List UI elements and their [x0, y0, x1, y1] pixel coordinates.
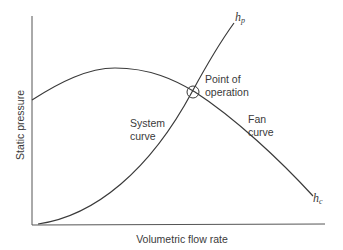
- system-curve-label: System curve: [130, 117, 165, 142]
- subscript: c: [319, 197, 323, 206]
- system-curve-end-label: hp: [235, 11, 245, 28]
- label-line-1: Point of: [205, 73, 249, 86]
- label-line-2: curve: [248, 126, 274, 139]
- x-axis-label: Volumetric flow rate: [136, 233, 228, 245]
- fan-curve-end-label: hc: [313, 192, 323, 209]
- diagram-canvas: [0, 0, 343, 250]
- label-line-2: operation: [205, 86, 249, 99]
- fan-curve-label: Fan curve: [248, 113, 274, 138]
- label-line-2: curve: [130, 130, 165, 143]
- label-line-1: Fan: [248, 113, 274, 126]
- subscript: p: [241, 16, 245, 25]
- label-line-1: System: [130, 117, 165, 130]
- operating-point-marker: [187, 86, 199, 98]
- y-axis-label: Static pressure: [14, 90, 26, 160]
- x-axis: [32, 224, 325, 225]
- operating-point-label: Point of operation: [205, 73, 249, 98]
